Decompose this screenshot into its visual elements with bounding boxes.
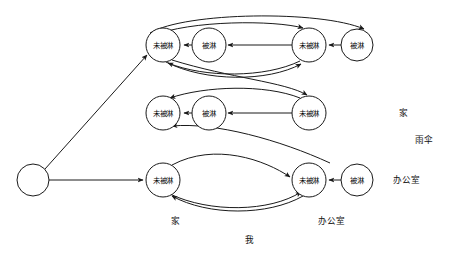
side-label-office: 办公室 — [393, 174, 420, 185]
node-label: 被淋 — [350, 41, 365, 50]
edge-bottom-left-to-bottom-right — [172, 154, 290, 177]
side-label-umbrella: 雨伞 — [415, 134, 433, 145]
node-top-left-not-wet[interactable]: 未被淋 — [146, 28, 180, 62]
bottom-label-office: 办公室 — [318, 215, 345, 226]
node-label: 未被淋 — [299, 41, 320, 50]
edge-top-arc-outer-to-right-wet — [150, 16, 364, 33]
edge-bottom-right-to-mid-left — [172, 125, 330, 163]
edge-start-to-top-left — [45, 55, 147, 169]
node-bottom-right-not-wet[interactable]: 未被淋 — [292, 163, 326, 197]
node-mid-right-not-wet[interactable]: 未被淋 — [292, 96, 326, 130]
bottom-label-home: 家 — [171, 215, 180, 226]
node-label: 未被淋 — [299, 176, 320, 185]
node-label: 被淋 — [202, 109, 217, 118]
node-label: 被淋 — [350, 176, 365, 185]
node-label: 未被淋 — [153, 176, 174, 185]
node-top-right-not-wet[interactable]: 未被淋 — [292, 28, 326, 62]
node-bottom-right-wet[interactable]: 被淋 — [341, 164, 373, 196]
node-label: 未被淋 — [153, 109, 174, 118]
edge-bottom-arc-right-to-left — [172, 196, 303, 211]
edge-mid-arc-right-to-left — [170, 88, 300, 98]
side-label-home: 家 — [399, 107, 408, 118]
node-label: 未被淋 — [299, 109, 320, 118]
node-label: 未被淋 — [153, 41, 174, 50]
node-start[interactable] — [17, 164, 49, 196]
node-bottom-left-not-wet[interactable]: 未被淋 — [146, 163, 180, 197]
node-mid-wet[interactable]: 被淋 — [192, 96, 226, 130]
bottom-label-me: 我 — [245, 235, 254, 245]
node-top-right-wet[interactable]: 被淋 — [341, 29, 373, 61]
node-label: 被淋 — [202, 41, 217, 50]
node-mid-left-not-wet[interactable]: 未被淋 — [146, 96, 180, 130]
node-top-wet[interactable]: 被淋 — [192, 28, 226, 62]
diagram-canvas: 未被淋 被淋 未被淋 被淋 未被淋 被淋 未被淋 未被淋 — [0, 0, 455, 254]
state-transition-diagram: 未被淋 被淋 未被淋 被淋 未被淋 被淋 未被淋 未被淋 — [0, 0, 455, 254]
